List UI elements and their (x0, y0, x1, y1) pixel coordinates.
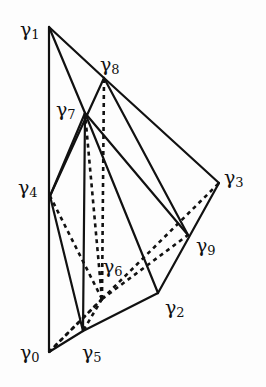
vertex-label-g4: γ4 (18, 178, 38, 199)
vertex-index: 6 (114, 264, 122, 279)
vertex-label-g5: γ5 (82, 343, 102, 364)
gamma-symbol: γ (82, 341, 93, 363)
gamma-symbol: γ (103, 255, 114, 277)
vertex-label-g6: γ6 (103, 257, 123, 278)
gamma-symbol: γ (224, 166, 235, 188)
edge-g4-g5 (50, 196, 83, 331)
edge-g7-g5 (83, 113, 85, 331)
vertex-label-g3: γ3 (224, 168, 244, 189)
vertex-index: 1 (31, 27, 39, 42)
gamma-symbol: γ (100, 53, 111, 75)
edge-g8-g3 (104, 78, 219, 183)
gamma-symbol: γ (18, 176, 29, 198)
vertex-index: 0 (31, 350, 39, 365)
gamma-symbol: γ (196, 234, 207, 256)
vertex-index: 7 (67, 107, 75, 122)
vertex-label-g7: γ7 (56, 100, 76, 121)
edge-g8-g9 (104, 78, 188, 235)
gamma-symbol: γ (56, 98, 67, 120)
edge-g1-g8 (49, 27, 104, 78)
vertex-label-g9: γ9 (196, 236, 216, 257)
hidden-edge-g6-g7 (85, 113, 102, 299)
edge-g7-g4 (50, 113, 85, 196)
vertex-label-g0: γ0 (20, 343, 40, 364)
edge-g5-g2 (83, 293, 158, 331)
gamma-symbol: γ (20, 341, 31, 363)
vertex-index: 4 (29, 185, 37, 200)
vertex-index: 8 (111, 62, 119, 77)
vertex-index: 3 (235, 175, 243, 190)
vertex-label-g2: γ2 (165, 298, 185, 319)
vertex-label-g8: γ8 (100, 55, 120, 76)
gamma-symbol: γ (165, 296, 176, 318)
diagram-edges (0, 0, 266, 387)
edge-g7-g9 (85, 113, 188, 235)
hidden-edge-g6-g4 (50, 196, 102, 299)
gamma-symbol: γ (20, 18, 31, 40)
polytope-diagram: γ0γ1γ2γ3γ4γ5γ6γ7γ8γ9 (0, 0, 266, 387)
vertex-index: 9 (207, 243, 215, 258)
vertex-index: 5 (93, 350, 101, 365)
vertex-index: 2 (176, 305, 184, 320)
vertex-label-g1: γ1 (20, 20, 40, 41)
